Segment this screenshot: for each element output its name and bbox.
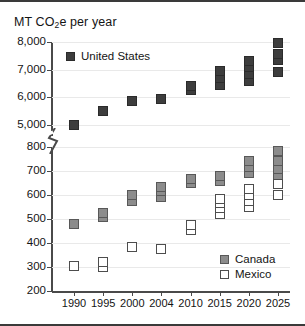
gridline bbox=[52, 42, 290, 43]
data-point-united-states bbox=[156, 94, 166, 104]
data-point-united-states bbox=[98, 106, 108, 116]
data-point-canada bbox=[244, 156, 254, 166]
legend-swatch-canada bbox=[220, 255, 229, 264]
x-tick-label: 2025 bbox=[266, 298, 290, 309]
gridline bbox=[52, 125, 290, 126]
y-tick-label: 8,000 bbox=[17, 36, 46, 48]
y-tick-label: 7,000 bbox=[17, 64, 46, 76]
x-tick-label: 2010 bbox=[178, 298, 202, 309]
data-point-canada bbox=[156, 182, 166, 192]
data-point-mexico bbox=[215, 194, 225, 204]
gridline bbox=[52, 243, 290, 244]
data-point-mexico bbox=[127, 242, 137, 252]
y-tick-mark bbox=[47, 243, 52, 244]
data-point-canada bbox=[98, 208, 108, 218]
chart-figure: MT CO2e per year 5,0006,0007,0008,000 20… bbox=[0, 0, 305, 326]
data-point-canada bbox=[215, 171, 225, 181]
data-point-united-states bbox=[244, 56, 254, 66]
data-point-united-states bbox=[273, 67, 283, 77]
y-tick-label: 600 bbox=[27, 189, 46, 201]
x-tick-mark bbox=[278, 291, 279, 296]
data-point-canada bbox=[186, 174, 196, 184]
x-tick-label: 2000 bbox=[120, 298, 144, 309]
y-tick-label: 800 bbox=[27, 141, 46, 153]
data-point-canada bbox=[69, 219, 79, 229]
x-tick-mark bbox=[220, 291, 221, 296]
data-point-united-states bbox=[186, 81, 196, 91]
legend-swatch-mexico bbox=[220, 270, 229, 279]
x-axis bbox=[52, 291, 290, 293]
y-tick-mark bbox=[47, 195, 52, 196]
y-tick-mark bbox=[47, 147, 52, 148]
chart-title-subscript: 2 bbox=[55, 20, 60, 30]
x-tick-mark bbox=[161, 291, 162, 296]
x-tick-label: 2015 bbox=[207, 298, 231, 309]
data-point-mexico bbox=[273, 190, 283, 200]
legend-item-mexico: Mexico bbox=[220, 269, 271, 281]
data-point-mexico bbox=[98, 257, 108, 267]
x-tick-label: 2020 bbox=[237, 298, 261, 309]
data-point-mexico bbox=[156, 244, 166, 254]
gridline bbox=[52, 171, 290, 172]
y-tick-label: 300 bbox=[27, 261, 46, 273]
y-tick-label: 200 bbox=[27, 285, 46, 297]
chart-title-suffix: e per year bbox=[59, 15, 116, 29]
legend-label-united-states: United States bbox=[81, 51, 150, 63]
legend-swatch-united-states bbox=[66, 52, 75, 61]
y-tick-label: 5,000 bbox=[17, 119, 46, 131]
chart-title: MT CO2e per year bbox=[14, 15, 117, 29]
y-tick-mark bbox=[47, 70, 52, 71]
data-point-united-states bbox=[273, 49, 283, 59]
gridline bbox=[52, 195, 290, 196]
data-point-mexico bbox=[69, 261, 79, 271]
y-tick-mark bbox=[47, 267, 52, 268]
data-point-canada bbox=[127, 190, 137, 200]
y-tick-mark bbox=[47, 125, 52, 126]
x-tick-mark bbox=[132, 291, 133, 296]
data-point-united-states bbox=[69, 120, 79, 130]
data-point-united-states bbox=[273, 38, 283, 48]
y-tick-mark bbox=[47, 219, 52, 220]
y-tick-mark bbox=[47, 171, 52, 172]
y-axis-upper bbox=[51, 42, 53, 136]
x-tick-label: 1990 bbox=[62, 298, 86, 309]
data-point-united-states bbox=[127, 96, 137, 106]
data-point-mexico bbox=[244, 184, 254, 194]
y-tick-mark bbox=[47, 97, 52, 98]
x-tick-mark bbox=[103, 291, 104, 296]
data-point-canada bbox=[273, 156, 283, 166]
x-tick-mark bbox=[191, 291, 192, 296]
y-tick-mark bbox=[47, 42, 52, 43]
x-tick-mark bbox=[249, 291, 250, 296]
data-point-united-states bbox=[215, 66, 225, 76]
data-point-mexico bbox=[186, 220, 196, 230]
gridline bbox=[52, 219, 290, 220]
legend-label-mexico: Mexico bbox=[235, 269, 271, 281]
chart-title-prefix: MT CO bbox=[14, 15, 55, 29]
legend-item-united-states: United States bbox=[66, 51, 150, 63]
x-tick-label: 2004 bbox=[149, 298, 173, 309]
y-tick-label: 500 bbox=[27, 213, 46, 225]
data-point-canada bbox=[273, 146, 283, 156]
y-tick-label: 6,000 bbox=[17, 92, 46, 104]
data-point-mexico bbox=[273, 179, 283, 189]
gridline bbox=[52, 97, 290, 98]
gridline bbox=[52, 147, 290, 148]
x-tick-mark bbox=[74, 291, 75, 296]
legend-item-canada: Canada bbox=[220, 254, 275, 266]
y-tick-label: 400 bbox=[27, 237, 46, 249]
gridline bbox=[52, 70, 290, 71]
y-tick-label: 700 bbox=[27, 165, 46, 177]
legend-label-canada: Canada bbox=[235, 254, 275, 266]
x-tick-label: 1995 bbox=[91, 298, 115, 309]
